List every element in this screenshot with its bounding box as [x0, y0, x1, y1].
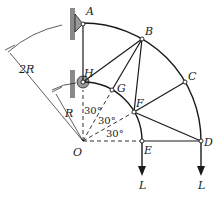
- angle-label-2: 30°: [98, 115, 116, 126]
- label-D: D: [203, 136, 213, 149]
- label-B: B: [144, 25, 153, 38]
- label-O: O: [73, 146, 82, 159]
- load-label-D: L: [197, 179, 205, 192]
- label-E: E: [143, 144, 152, 157]
- dimension-arc-2R: [8, 25, 62, 52]
- label-A: A: [85, 5, 94, 18]
- label-C: C: [188, 70, 197, 83]
- label-R: R: [64, 107, 73, 120]
- label-2R: 2R: [18, 63, 34, 76]
- angle-label-3: 30°: [106, 128, 124, 139]
- label-G: G: [117, 82, 126, 95]
- label-F: F: [135, 97, 144, 110]
- load-label-E: L: [138, 179, 146, 192]
- label-H: H: [83, 67, 94, 80]
- truss-diagram: A B C D E F G H O R 2R 30° 30° 30° L L: [0, 0, 216, 205]
